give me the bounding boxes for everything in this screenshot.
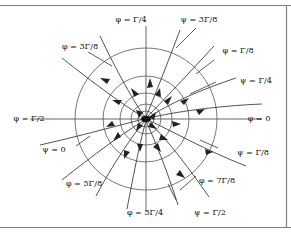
arrowhead-9 — [131, 88, 139, 97]
arrowhead-17 — [176, 170, 185, 178]
label-phi-eighth: φ = Γ/8 — [222, 45, 253, 55]
label-psi-half: ψ = Γ/2 — [194, 207, 226, 217]
label-phi-half: φ = Γ/2 — [13, 113, 44, 123]
label-phi-5eighths: φ = 5Γ/8 — [66, 178, 102, 188]
label-phi-3quarters: φ = 3Γ/4 — [127, 207, 163, 217]
leader-psi-3eighths — [176, 28, 196, 48]
label-psi-quarter: ψ = Γ/4 — [240, 75, 272, 85]
arrowhead-12 — [153, 143, 161, 152]
trajectory-e-1 — [148, 104, 262, 118]
arrowhead-2 — [196, 109, 205, 115]
label-phi-quarter: φ = Γ/4 — [115, 14, 146, 24]
arrowhead-5 — [137, 144, 143, 152]
leader-phi-7eighths — [180, 176, 196, 190]
arrowhead-7 — [106, 121, 115, 127]
trajectory-s-2 — [127, 121, 146, 209]
label-psi-zero: ψ = 0 — [42, 144, 65, 154]
arrowhead-14 — [147, 78, 153, 88]
arrowhead-3 — [172, 121, 181, 127]
arrowhead-6 — [113, 132, 121, 141]
arrowhead-11 — [164, 96, 172, 105]
trajectory-sw-1 — [62, 120, 145, 180]
trajectory-w-1 — [40, 119, 144, 145]
figure-frame: φ = Γ/4 ψ = 3Γ/8 φ = 3Γ/8 φ = Γ/8 ψ = Γ/… — [0, 0, 291, 233]
polar-phase-portrait-figure: φ = Γ/4 ψ = 3Γ/8 φ = 3Γ/8 φ = Γ/8 ψ = Γ/… — [0, 0, 291, 233]
trajectory-sw-2 — [96, 121, 145, 196]
label-psi-3eighths: ψ = 3Γ/8 — [181, 14, 218, 24]
fixed-point-core — [141, 116, 151, 122]
trajectory-se-1 — [148, 120, 246, 166]
arrowhead-8 — [112, 100, 122, 105]
arrowhead-15 — [100, 78, 110, 84]
label-phi-3eighths: φ = 3Γ/8 — [62, 41, 98, 51]
trajectory-n-2 — [146, 30, 180, 117]
arrowhead-18 — [136, 110, 143, 118]
label-phi-7eighths: φ = 7Γ/8 — [199, 175, 235, 185]
label-phi-zero: φ = 0 — [248, 113, 271, 123]
trajectory-s-1 — [147, 121, 209, 197]
trajectory-nw-1 — [62, 58, 145, 118]
label-psi-eighth: ψ = Γ/8 — [237, 147, 269, 157]
